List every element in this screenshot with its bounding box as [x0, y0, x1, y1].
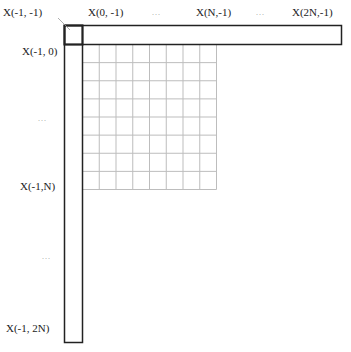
label-top-0: X(0, -1): [88, 6, 123, 18]
label-top-dots-2: ...: [256, 8, 265, 17]
label-left-0: X(-1, 0): [22, 45, 57, 57]
label-left-n: X(-1,N): [20, 180, 55, 192]
label-top-dots-1: ...: [152, 8, 161, 17]
label-left-2n: X(-1, 2N): [6, 322, 49, 334]
top-reference-bar: [65, 26, 342, 45]
label-left-dots-1: ...: [38, 114, 47, 123]
label-corner: X(-1, -1): [3, 6, 42, 18]
label-top-2n: X(2N,-1): [292, 6, 333, 18]
block-grid: [83, 45, 217, 190]
label-left-dots-2: ...: [42, 252, 51, 261]
left-reference-bar: [65, 26, 83, 343]
label-top-n: X(N,-1): [196, 6, 231, 18]
corner-sample: [65, 26, 83, 45]
